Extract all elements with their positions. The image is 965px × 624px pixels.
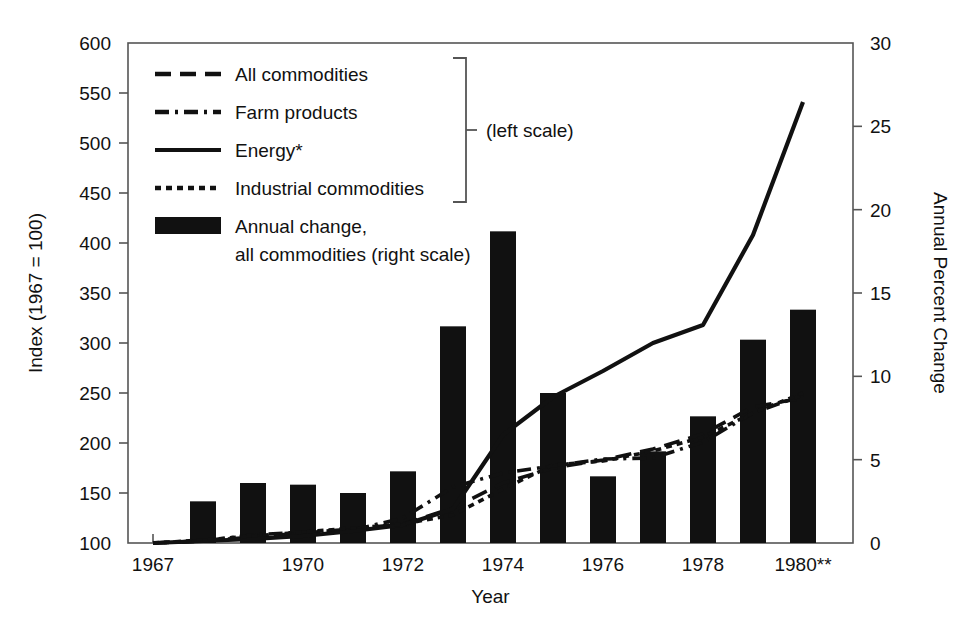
- legend-swatch-bar: [155, 217, 221, 234]
- legend-label-dash-dot: Farm products: [235, 102, 357, 123]
- bar: [390, 471, 416, 543]
- x-axis-tick-label: 1970: [282, 554, 324, 575]
- x-axis-tick-label: 1974: [482, 554, 525, 575]
- legend-bracket: [453, 58, 466, 202]
- y2-axis-tick-label: 10: [870, 366, 891, 387]
- x-axis-tick-label: 1976: [582, 554, 624, 575]
- y2-axis-tick-label: 15: [870, 283, 891, 304]
- x-axis-tick-label: 1980**: [774, 554, 832, 575]
- y-axis-tick-label: 300: [79, 333, 111, 354]
- bar: [590, 476, 616, 543]
- y-axis-tick-label: 600: [79, 33, 111, 54]
- y-axis-tick-label: 150: [79, 483, 111, 504]
- x-axis-tick-label: 1967: [132, 554, 174, 575]
- y-axis-tick-label: 100: [79, 533, 111, 554]
- y2-axis-tick-label: 20: [870, 200, 891, 221]
- bar: [340, 493, 366, 543]
- y-axis-tick-label: 200: [79, 433, 111, 454]
- x-axis-tick-label: 1972: [382, 554, 424, 575]
- legend-label-dashed: All commodities: [235, 64, 368, 85]
- bar: [640, 451, 666, 543]
- ppi-index-chart: 1001502002503003504004505005506000510152…: [0, 0, 965, 624]
- chart-container: 1001502002503003504004505005506000510152…: [0, 0, 965, 624]
- x-axis-tick-label: 1978: [682, 554, 724, 575]
- y-axis-tick-label: 350: [79, 283, 111, 304]
- y-axis-tick-label: 250: [79, 383, 111, 404]
- y2-axis-title: Annual Percent Change: [930, 192, 951, 394]
- bar: [790, 310, 816, 543]
- legend-label-solid: Energy*: [235, 140, 303, 161]
- y-axis-tick-label: 500: [79, 133, 111, 154]
- legend-label-dotted: Industrial commodities: [235, 178, 424, 199]
- y-axis-tick-label: 450: [79, 183, 111, 204]
- y2-axis-tick-label: 30: [870, 33, 891, 54]
- legend-label-annual-change-2: all commodities (right scale): [235, 244, 470, 265]
- bar: [740, 340, 766, 543]
- legend-label-annual-change: Annual change,: [235, 216, 367, 237]
- bar: [190, 501, 216, 543]
- legend-left-scale-note: (left scale): [486, 120, 574, 141]
- y-axis-title: Index (1967 = 100): [25, 213, 46, 373]
- y-axis-tick-label: 400: [79, 233, 111, 254]
- y2-axis-tick-label: 0: [870, 533, 881, 554]
- x-axis-title: Year: [471, 586, 510, 607]
- y-axis-tick-label: 550: [79, 83, 111, 104]
- bar: [490, 231, 516, 543]
- y2-axis-tick-label: 5: [870, 450, 881, 471]
- y2-axis-tick-label: 25: [870, 116, 891, 137]
